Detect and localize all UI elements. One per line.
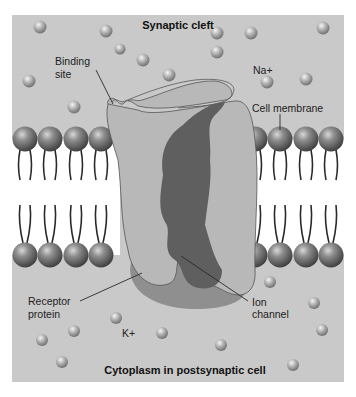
receptor-protein-label-line2: protein bbox=[28, 308, 60, 320]
k-ion-label: K+ bbox=[122, 327, 135, 339]
cell-membrane-label: Cell membrane bbox=[252, 102, 323, 114]
na-ion-label: Na+ bbox=[253, 64, 273, 76]
ion-channel-label-line1: Ion bbox=[252, 296, 267, 308]
cytoplasm-label: Cytoplasm in postsynaptic cell bbox=[104, 364, 265, 376]
ion-channel-label-line2: channel bbox=[252, 308, 289, 320]
binding-site-label-line2: site bbox=[55, 68, 72, 80]
receptor-ion-channel-diagram: Synaptic cleft Binding site Na+ Cell mem… bbox=[0, 0, 356, 397]
binding-site-label-line1: Binding bbox=[55, 55, 90, 67]
synaptic-cleft-label: Synaptic cleft bbox=[142, 19, 214, 31]
receptor-protein-label-line1: Receptor bbox=[28, 295, 71, 307]
